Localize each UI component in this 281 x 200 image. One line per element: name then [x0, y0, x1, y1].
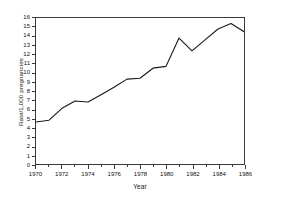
y-tick-mark: [32, 156, 36, 157]
x-tick-mark: [140, 165, 141, 169]
y-tick-mark: [32, 26, 36, 27]
y-tick-label: 0: [27, 161, 30, 169]
y-tick-label: 9: [27, 78, 30, 86]
x-tick-mark: [153, 165, 154, 167]
x-tick-mark: [166, 165, 167, 169]
y-tick: 2: [0, 147, 35, 148]
y-tick-mark: [32, 100, 36, 101]
y-tick-mark: [32, 110, 36, 111]
x-tick-label: 1976: [101, 170, 128, 178]
x-tick-mark: [61, 165, 62, 169]
y-tick-label: 16: [23, 13, 30, 21]
y-tick-label: 13: [23, 41, 30, 49]
y-tick-mark: [32, 147, 36, 148]
x-tick-mark: [219, 165, 220, 169]
y-tick: 6: [0, 110, 35, 111]
x-tick-label: 1978: [127, 170, 154, 178]
x-tick-mark: [35, 165, 36, 169]
y-tick: 13: [0, 45, 35, 46]
y-tick: 16: [0, 17, 35, 18]
y-tick: 10: [0, 73, 35, 74]
y-tick: 3: [0, 137, 35, 138]
y-tick: 5: [0, 119, 35, 120]
y-tick-mark: [32, 119, 36, 120]
y-tick-label: 4: [27, 124, 30, 132]
y-tick: 11: [0, 63, 35, 64]
y-tick-mark: [32, 137, 36, 138]
x-tick-mark: [179, 165, 180, 167]
y-tick-label: 5: [27, 115, 30, 123]
x-tick-label: 1986: [232, 170, 259, 178]
x-tick-mark: [48, 165, 49, 167]
y-tick-mark: [32, 17, 36, 18]
y-tick-mark: [32, 36, 36, 37]
y-tick: 8: [0, 91, 35, 92]
y-tick: 14: [0, 36, 35, 37]
x-tick-label: 1980: [153, 170, 180, 178]
y-tick-mark: [32, 128, 36, 129]
y-tick-label: 7: [27, 96, 30, 104]
x-tick-label: 1972: [48, 170, 75, 178]
y-tick-label: 3: [27, 133, 30, 141]
y-tick-mark: [32, 91, 36, 92]
x-tick-label: 1970: [22, 170, 49, 178]
y-tick-label: 8: [27, 87, 30, 95]
y-tick-mark: [32, 82, 36, 83]
x-tick-mark: [245, 165, 246, 169]
x-tick-label: 1984: [206, 170, 233, 178]
y-tick-label: 15: [23, 22, 30, 30]
y-tick-label: 11: [24, 59, 30, 67]
y-tick-label: 10: [23, 68, 30, 76]
x-tick-mark: [74, 165, 75, 167]
x-tick-label: 1974: [75, 170, 102, 178]
y-tick-label: 14: [23, 31, 30, 39]
x-tick-mark: [206, 165, 207, 167]
x-tick-mark: [101, 165, 102, 167]
y-tick: 0: [0, 165, 35, 166]
x-tick-mark: [232, 165, 233, 167]
y-tick: 9: [0, 82, 35, 83]
y-tick: 7: [0, 100, 35, 101]
x-axis-title: Year: [35, 183, 245, 190]
data-line: [36, 23, 244, 122]
x-tick-label: 1982: [180, 170, 207, 178]
y-tick-label: 6: [27, 105, 30, 113]
y-tick: 15: [0, 26, 35, 27]
line-series-svg: [36, 18, 244, 164]
y-tick-mark: [32, 45, 36, 46]
y-tick-mark: [32, 63, 36, 64]
y-tick: 1: [0, 156, 35, 157]
y-tick: 12: [0, 54, 35, 55]
y-tick: 4: [0, 128, 35, 129]
y-tick-label: 2: [27, 142, 30, 150]
y-tick-label: 12: [23, 50, 30, 58]
y-tick-mark: [32, 54, 36, 55]
x-tick-mark: [193, 165, 194, 169]
plot-area: [35, 17, 245, 165]
y-tick-mark: [32, 73, 36, 74]
x-tick-mark: [88, 165, 89, 169]
x-tick-mark: [114, 165, 115, 169]
x-tick-mark: [127, 165, 128, 167]
chart-figure: Rate/1,000 pregnancies 01234567891011121…: [0, 0, 281, 200]
y-tick-label: 1: [27, 152, 30, 160]
